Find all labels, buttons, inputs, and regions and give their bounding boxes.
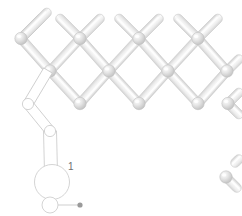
lattice-node-11-body [222, 97, 234, 109]
edge-node-0-body [220, 171, 232, 183]
lattice-link-9-specular [112, 42, 138, 69]
lattice-link-16-specular [83, 74, 108, 101]
lattice-node-8-body [74, 97, 86, 109]
callout-label-1: 1 [68, 162, 74, 172]
lattice-link-13-specular [171, 42, 197, 69]
lattice-node-8 [74, 97, 86, 109]
lattice-link-18-specular [142, 74, 167, 101]
lattice-node-11 [222, 97, 234, 109]
assembly-disc-rotor[interactable] [35, 165, 70, 200]
assembly-pivot-base[interactable] [42, 197, 58, 213]
lattice-node-2-specular [135, 35, 139, 38]
lattice-node-0-body [15, 32, 27, 44]
render-canvas: 1 [0, 0, 242, 216]
lattice-node-7-specular [223, 67, 227, 70]
lattice-node-1-body [74, 32, 86, 44]
edge-fragment-group [220, 153, 242, 195]
lattice-node-3-specular [194, 35, 198, 38]
lattice-link-10-specular [142, 40, 167, 67]
edge-node-0-specular [222, 173, 226, 176]
lattice-node-2 [133, 32, 145, 44]
lattice-node-6 [162, 65, 174, 77]
lattice-node-5-body [103, 65, 115, 77]
lattice-node-10-specular [194, 100, 198, 103]
lattice-link-17-specular [112, 73, 138, 100]
lattice-node-7-body [221, 65, 233, 77]
lattice-node-1-specular [76, 35, 80, 38]
lattice-node-6-specular [164, 67, 168, 70]
lattice-node-5-specular [105, 67, 109, 70]
lattice-link-19-specular [171, 73, 197, 100]
lattice-node-3 [192, 32, 204, 44]
lattice-link-20-specular [201, 74, 226, 101]
lattice-node-9-body [133, 97, 145, 109]
lattice-node-9-specular [135, 100, 139, 103]
lattice-link-5-specular [53, 42, 79, 69]
lattice-node-2-body [133, 32, 145, 44]
lattice-link-1-specular [22, 42, 47, 69]
lattice-node-0-specular [17, 35, 21, 38]
lattice-node-1 [74, 32, 86, 44]
axis-marker-tip [77, 202, 82, 207]
edge-fragment-0 [229, 153, 242, 170]
lattice-link-group [18, 6, 242, 121]
assembly-pivot-upper[interactable] [22, 98, 33, 109]
lattice-node-11-specular [224, 100, 228, 103]
lattice-node-7 [221, 65, 233, 77]
lattice-node-0 [15, 32, 27, 44]
lattice-node-10 [192, 97, 204, 109]
lattice-node-6-body [162, 65, 174, 77]
assembly-pivot-mid[interactable] [44, 125, 55, 136]
edge-node-0 [220, 171, 232, 183]
lattice-link-14-specular [201, 40, 226, 67]
mechanism-scene [0, 0, 242, 216]
lattice-link-6-specular [83, 40, 108, 67]
lattice-node-8-specular [76, 100, 80, 103]
lattice-node-5 [103, 65, 115, 77]
lattice-node-10-body [192, 97, 204, 109]
lattice-node-9 [133, 97, 145, 109]
lattice-link-15-specular [53, 73, 79, 100]
lattice-node-3-body [192, 32, 204, 44]
